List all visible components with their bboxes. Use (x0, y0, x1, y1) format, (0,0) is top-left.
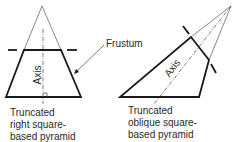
caption-left-line: based pyramid (10, 131, 76, 142)
axis-label-right: Axis (162, 57, 182, 79)
caption-right-line: based pyramid (128, 129, 197, 141)
caption-right: Truncated oblique square- based pyramid (128, 105, 197, 141)
caption-left-line: right square- (10, 119, 76, 131)
oblique-axis-line (154, 6, 231, 104)
frustum-leader (74, 45, 104, 74)
caption-left-line: Truncated (10, 107, 76, 119)
axis-label-left: Axis (32, 66, 43, 85)
frustum-label: Frustum (106, 38, 143, 49)
caption-right-line: oblique square- (128, 117, 197, 129)
right-frustum-outline (6, 50, 81, 97)
caption-right-line: Truncated (128, 105, 197, 117)
caption-left: Truncated right square- based pyramid (10, 107, 76, 142)
right-pyramid-figure (6, 6, 81, 104)
oblique-pyramid-figure (120, 6, 231, 104)
